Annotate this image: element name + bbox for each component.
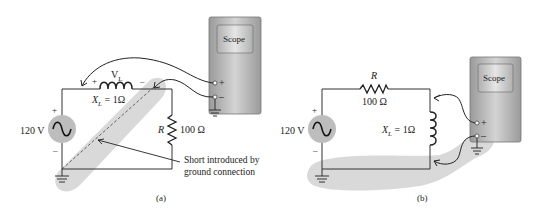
- scope-minus-a: –: [219, 92, 224, 102]
- inductor-minus-a: –: [140, 77, 145, 86]
- resistor-value-a: 100 Ω: [180, 125, 205, 135]
- source-minus-a: –: [53, 146, 58, 155]
- scope-plus-b: +: [481, 118, 487, 128]
- source-minus-b: –: [313, 146, 318, 155]
- scope-label-b: Scope: [483, 74, 505, 83]
- inductor-a: [100, 82, 132, 89]
- reactance-a: XL = 1Ω: [92, 95, 125, 108]
- source-voltage-b: 120 V: [280, 126, 305, 136]
- probe-plus-a: [82, 58, 213, 86]
- resistor-b: [360, 85, 388, 93]
- probe-plus-b: [434, 95, 475, 123]
- short-shade-b: [307, 132, 494, 191]
- circuit-diagram: [0, 0, 542, 218]
- resistor-name-a: R: [158, 125, 164, 135]
- annotation-line-2: ground connection: [184, 168, 255, 178]
- reactance-b: XL = 1Ω: [382, 125, 415, 138]
- resistor-a: [168, 115, 176, 145]
- source-voltage-a: 120 V: [20, 126, 45, 136]
- resistor-value-b: 100 Ω: [362, 97, 387, 107]
- inductor-plus-a: +: [92, 77, 97, 86]
- caption-b: (b): [417, 194, 428, 203]
- inductor-voltage-a: VL: [111, 70, 123, 83]
- scope-plus-a: +: [219, 78, 225, 88]
- resistor-name-b: R: [371, 71, 377, 81]
- caption-a: (a): [156, 194, 166, 203]
- source-plus-a: +: [52, 106, 57, 115]
- inductor-b: [430, 112, 436, 145]
- annotation-line-1: Short introduced by: [184, 156, 259, 166]
- scope-label-a: Scope: [223, 35, 245, 44]
- source-plus-b: +: [312, 106, 317, 115]
- scope-minus-b: –: [481, 131, 486, 141]
